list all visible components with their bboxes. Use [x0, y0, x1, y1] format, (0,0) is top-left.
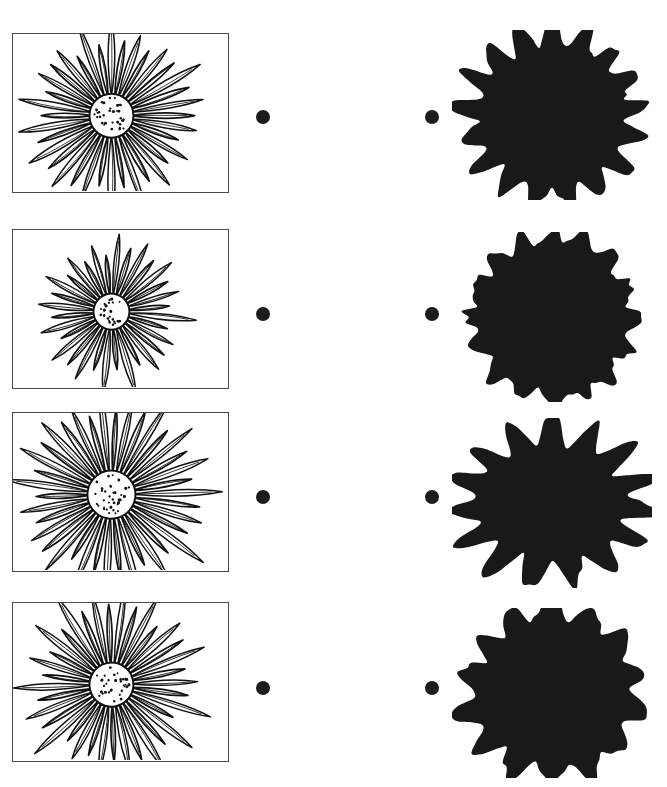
outline-frame	[12, 412, 229, 572]
dahlia-outline	[13, 34, 228, 191]
right-bullet-marker	[425, 490, 439, 504]
left-bullet-marker	[256, 490, 270, 504]
page-title: Flower Outline and Silhouette Comparison…	[0, 21, 1, 22]
outline-frame	[12, 33, 229, 193]
open-dahlia-outline	[13, 230, 228, 387]
open-dahlia-silhouette	[452, 232, 652, 402]
left-bullet-marker	[256, 681, 270, 695]
outline-frame	[12, 229, 229, 389]
left-bullet-marker	[256, 307, 270, 321]
daisy-tilted-silhouette	[452, 608, 652, 778]
daisy-tilted-outline	[13, 603, 228, 760]
right-bullet-marker	[425, 110, 439, 124]
outline-frame	[12, 602, 229, 762]
right-bullet-marker	[425, 307, 439, 321]
daisy-outline	[13, 413, 228, 570]
left-bullet-marker	[256, 110, 270, 124]
comparison-sheet: Flower Outline and Silhouette Comparison…	[0, 0, 667, 787]
daisy-silhouette	[452, 418, 652, 588]
right-bullet-marker	[425, 681, 439, 695]
dahlia-silhouette	[452, 30, 652, 200]
